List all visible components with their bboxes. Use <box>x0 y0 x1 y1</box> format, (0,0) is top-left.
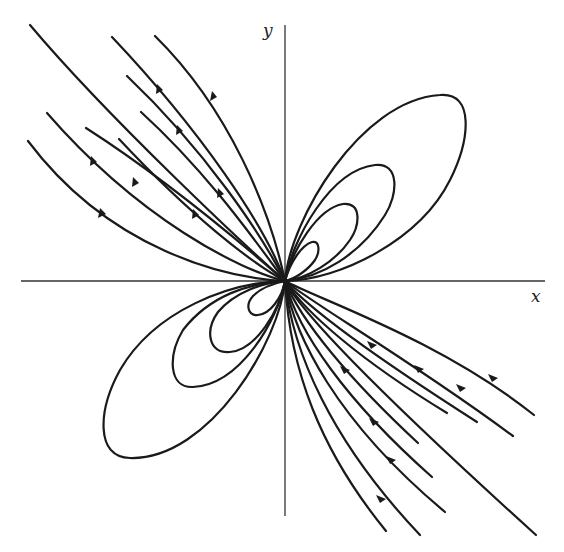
upper-left-trajectories <box>28 25 285 281</box>
y-axis-label: y <box>262 20 273 40</box>
x-axis-label: x <box>531 286 541 306</box>
arrow-icon <box>132 177 139 187</box>
arrow-icon <box>456 384 466 392</box>
lower-right-trajectories <box>285 281 536 535</box>
arrow-icon <box>488 374 498 382</box>
third-quadrant-loops <box>104 281 285 458</box>
first-quadrant-loops <box>285 95 466 281</box>
arrow-icon <box>210 91 217 101</box>
upper-left-arrows <box>90 84 224 219</box>
phase-portrait-diagram: x y <box>0 0 564 552</box>
